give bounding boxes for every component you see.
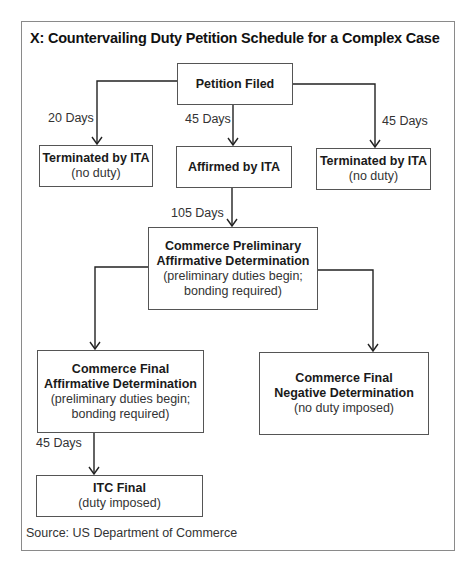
node-note-line2: bonding required) <box>72 407 170 422</box>
node-petition-filed: Petition Filed <box>177 63 293 105</box>
node-title: ITC Final <box>93 481 146 496</box>
node-title-line2: Affirmative Determination <box>44 377 197 392</box>
node-note-line1: (preliminary duties begin; <box>163 269 303 284</box>
node-title-line1: Commerce Preliminary <box>165 239 301 254</box>
node-note: (no duty) <box>71 166 120 181</box>
source-note: Source: US Department of Commerce <box>26 526 237 540</box>
node-note: (no duty imposed) <box>294 401 394 416</box>
edge-label-45-days-itc: 45 Days <box>36 436 82 450</box>
node-note-line1: (preliminary duties begin; <box>51 392 191 407</box>
node-note: (no duty) <box>349 169 398 184</box>
node-note-line2: bonding required) <box>184 284 282 299</box>
edge-label-45-days-right: 45 Days <box>382 114 428 128</box>
node-title-line1: Commerce Final <box>72 362 169 377</box>
node-title: Affirmed by ITA <box>188 160 280 175</box>
node-title: Terminated by ITA <box>42 151 149 166</box>
node-commerce-final-affirmative: Commerce Final Affirmative Determination… <box>37 350 204 433</box>
node-title-line2: Negative Determination <box>274 386 414 401</box>
node-itc-final: ITC Final (duty imposed) <box>36 475 203 517</box>
node-terminated-right: Terminated by ITA (no duty) <box>316 148 431 190</box>
figure-title: X: Countervailing Duty Petition Schedule… <box>30 30 440 46</box>
node-title-line1: Commerce Final <box>295 371 392 386</box>
node-commerce-preliminary: Commerce Preliminary Affirmative Determi… <box>148 227 318 310</box>
edge-label-20-days: 20 Days <box>48 111 94 125</box>
node-title: Petition Filed <box>196 77 274 92</box>
node-title-line2: Affirmative Determination <box>157 254 310 269</box>
edge-label-45-days-affirmed: 45 Days <box>185 112 231 126</box>
node-affirmed-by-ita: Affirmed by ITA <box>176 146 292 188</box>
node-terminated-left: Terminated by ITA (no duty) <box>39 145 153 187</box>
node-note: (duty imposed) <box>78 496 161 511</box>
edge-label-105-days: 105 Days <box>171 206 224 220</box>
node-title: Terminated by ITA <box>320 154 427 169</box>
node-commerce-final-negative: Commerce Final Negative Determination (n… <box>259 352 429 435</box>
